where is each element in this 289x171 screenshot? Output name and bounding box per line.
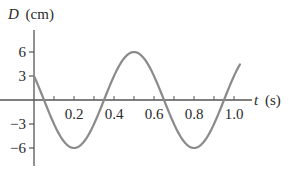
x-tick-label: 0.8 [185,106,204,122]
y-axis-label: D (cm) [7,6,54,23]
y-tick-label: 3 [19,68,27,84]
y-tick-label: −3 [10,116,26,132]
x-tick-label: 0.6 [145,106,164,122]
y-tick-label: 6 [19,44,27,60]
x-tick-label: 0.4 [105,106,124,122]
displacement-time-chart: 63−3−6 0.20.40.60.81.0 D (cm) t (s) [0,0,289,171]
x-tick-label: 0.2 [65,106,84,122]
y-tick-label: −6 [10,140,26,156]
x-tick-label: 1.0 [225,106,244,122]
x-axis-label: t (s) [254,92,281,109]
